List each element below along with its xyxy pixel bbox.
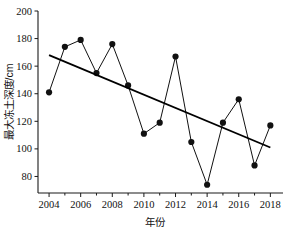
data-point-2014 [204, 182, 210, 188]
x-tick-label-2014: 2014 [197, 199, 219, 210]
x-tick-label-2018: 2018 [260, 199, 281, 210]
chart-container: 80100120140160180200 最大冻土深度/cm 200420062… [0, 0, 293, 232]
y-tick-label-160: 160 [16, 61, 32, 72]
y-axis-title: 最大冻土深度/cm [3, 63, 15, 140]
x-axis-group: 20042006200820102012201420162018 年份 [38, 193, 283, 228]
x-tick-label-2010: 2010 [133, 199, 154, 210]
data-point-2015 [220, 120, 226, 126]
x-tick-label-2016: 2016 [228, 199, 249, 210]
data-point-2016 [236, 96, 242, 102]
x-tick-label-2012: 2012 [165, 199, 186, 210]
y-tick-label-140: 140 [16, 88, 32, 99]
series-markers [46, 37, 273, 188]
y-axis-group: 80100120140160180200 最大冻土深度/cm [3, 6, 38, 193]
x-tick-label-2008: 2008 [102, 199, 123, 210]
series-polyline [49, 40, 270, 185]
x-tick-label-2006: 2006 [70, 199, 91, 210]
data-point-2008 [109, 41, 115, 47]
x-axis-title: 年份 [145, 216, 166, 228]
data-point-2011 [157, 120, 163, 126]
y-tick-label-200: 200 [16, 6, 32, 17]
data-series-group [46, 37, 273, 188]
y-tick-label-80: 80 [22, 171, 33, 182]
data-point-2017 [251, 162, 257, 168]
data-point-2006 [78, 37, 84, 43]
line-chart: 80100120140160180200 最大冻土深度/cm 200420062… [0, 0, 293, 232]
x-axis-tick-labels: 20042006200820102012201420162018 [39, 199, 281, 210]
data-point-2010 [141, 131, 147, 137]
y-tick-label-120: 120 [16, 116, 32, 127]
data-point-2018 [267, 122, 273, 128]
data-point-2013 [188, 139, 194, 145]
x-axis-ticks [49, 193, 270, 197]
data-point-2005 [62, 44, 68, 50]
y-tick-label-180: 180 [16, 33, 32, 44]
y-tick-label-100: 100 [16, 143, 32, 154]
y-axis-tick-labels: 80100120140160180200 [16, 6, 32, 182]
data-point-2012 [172, 53, 178, 59]
x-tick-label-2004: 2004 [39, 199, 61, 210]
data-point-2004 [46, 89, 52, 95]
